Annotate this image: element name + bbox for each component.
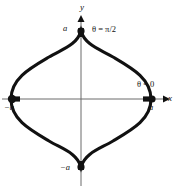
y-axis-label: y <box>80 3 84 12</box>
vertex-label-right-a: a <box>149 103 153 112</box>
x-axis-label: x <box>168 94 172 103</box>
annotation-theta-pi-over-two: θ = π/2 <box>92 25 116 34</box>
astroid-figure: y x a −a a −a θ = π/2 θ = 0 <box>0 0 180 188</box>
annotation-theta-zero: θ = 0 <box>137 80 154 89</box>
vertex-label-top-a: a <box>63 24 67 33</box>
vertex-label-bottom-negative-a: −a <box>60 163 70 172</box>
vertex-dot-top <box>77 27 84 34</box>
astroid-plot-canvas <box>0 0 180 188</box>
y-axis-arrowhead <box>78 15 85 22</box>
vertex-label-left-negative-a: −a <box>4 103 14 112</box>
vertex-dot-bottom <box>77 163 84 170</box>
